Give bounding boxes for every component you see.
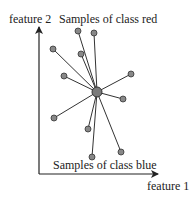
sample-point [120,96,126,102]
center-point [92,87,102,97]
sample-point [85,126,91,132]
sample-point [128,71,134,77]
sample-point [91,30,97,36]
sample-point [118,149,124,155]
connection-line [64,76,97,92]
sample-point [61,73,67,79]
feature-space-diagram: feature 2 Samples of class red Samples o… [0,0,194,201]
sample-point [50,46,56,52]
class-blue-label: Samples of class blue [53,158,157,172]
connection-line [81,54,97,92]
sample-point [51,115,57,121]
sample-point [75,28,81,34]
class-red-label: Samples of class red [59,12,157,26]
sample-point [78,51,84,57]
connection-line [97,74,131,92]
connection-line [97,92,121,152]
connection-line [54,92,97,118]
x-axis-label: feature 1 [147,179,189,193]
y-axis-label: feature 2 [9,12,51,26]
